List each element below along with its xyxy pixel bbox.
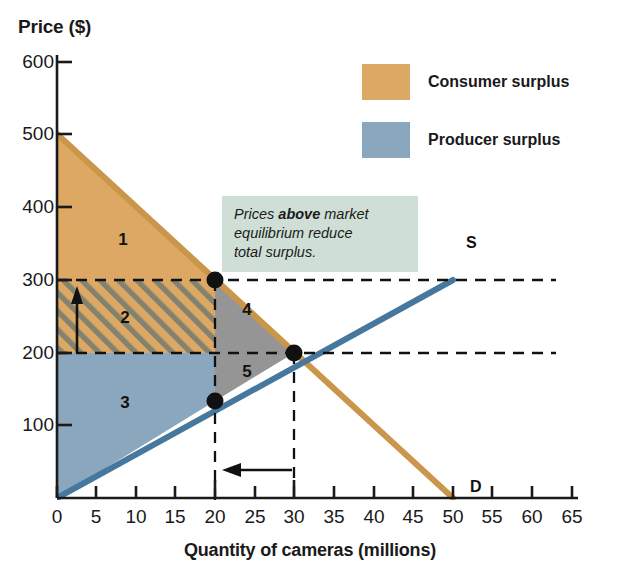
region-label-5: 5 [232,362,262,382]
region-label-4: 4 [232,300,262,320]
y-tick-label-300: 300 [0,269,54,291]
x-tick-label-10: 10 [116,506,156,528]
legend-label-producer-surplus: Producer surplus [428,131,560,149]
x-tick-label-50: 50 [433,506,473,528]
legend-swatch-consumer-surplus [362,64,410,100]
legend-label-consumer-surplus: Consumer surplus [428,73,569,91]
legend-item-producer-surplus: Producer surplus [362,122,569,158]
y-tick-label-100: 100 [0,414,54,436]
y-tick-label-200: 200 [0,342,54,364]
x-tick-label-30: 30 [274,506,314,528]
region-label-2: 2 [110,308,140,328]
y-tick-label-400: 400 [0,196,54,218]
region-label-1: 1 [108,230,138,250]
x-tick-label-0: 0 [37,506,77,528]
x-tick-label-5: 5 [76,506,116,528]
callout-line3: total surplus. [234,244,316,260]
marker-demand-at-floor [207,272,224,289]
supply-curve-label: S [466,234,477,252]
x-tick-label-20: 20 [195,506,235,528]
callout-line1-a: Prices [234,206,278,222]
marker-supply-at-restricted-q [207,393,224,410]
callout-box: Prices above market equilibrium reduce t… [222,196,418,272]
x-tick-label-45: 45 [393,506,433,528]
callout-line2: equilibrium reduce [234,225,352,241]
marker-market-equilibrium [286,345,303,362]
region-label-3: 3 [110,393,140,413]
x-axis-ticks [57,480,572,498]
callout-line1-c: market [320,206,368,222]
legend-item-consumer-surplus: Consumer surplus [362,64,569,100]
x-tick-label-60: 60 [512,506,552,528]
x-tick-label-25: 25 [235,506,275,528]
legend-swatch-producer-surplus [362,122,410,158]
chart-legend: Consumer surplus Producer surplus [362,64,569,180]
x-tick-label-15: 15 [155,506,195,528]
x-tick-label-40: 40 [354,506,394,528]
quantity-decrease-arrow [222,463,292,477]
callout-emphasis: above [278,206,320,222]
chart-canvas: Price ($) Quantity of cameras (millions)… [0,0,620,577]
y-axis-title: Price ($) [18,16,91,38]
demand-curve-label: D [470,478,482,496]
x-axis-title: Quantity of cameras (millions) [0,540,620,561]
x-tick-label-65: 65 [552,506,592,528]
x-tick-label-35: 35 [314,506,354,528]
y-tick-label-500: 500 [0,123,54,145]
x-tick-label-55: 55 [472,506,512,528]
y-tick-label-600: 600 [0,51,54,73]
